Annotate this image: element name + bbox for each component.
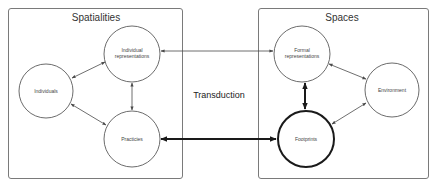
- node-label: representations: [115, 53, 150, 59]
- spatialities-title: Spatialities: [72, 12, 120, 23]
- node-formal-representations: Formal representations: [274, 26, 330, 82]
- node-label: Practicies: [121, 136, 143, 142]
- node-footprints: Footprints: [278, 111, 334, 167]
- node-label: Environment: [378, 87, 407, 93]
- node-individuals: Individuals: [19, 64, 73, 118]
- node-label: Individuals: [34, 88, 58, 94]
- transduction-label: Transduction: [193, 90, 245, 100]
- node-label: Footprints: [295, 136, 318, 142]
- edge-environment-footprints: [332, 103, 366, 124]
- transduction-diagram: Spatialities Spaces Transduction Individ…: [0, 0, 436, 188]
- edge-formal-representations-environment: [329, 64, 366, 79]
- node-environment: Environment: [365, 63, 419, 117]
- edge-individuals-practicies: [71, 104, 106, 125]
- node-label: representations: [285, 53, 320, 59]
- node-individual-representations: Individual representations: [104, 26, 160, 82]
- spaces-title: Spaces: [325, 12, 358, 23]
- node-practicies: Practicies: [104, 111, 160, 167]
- edge-individuals-individual-representations: [72, 62, 105, 78]
